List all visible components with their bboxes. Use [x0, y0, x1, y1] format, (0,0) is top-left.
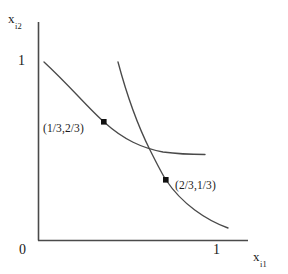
- plot-canvas: [0, 0, 288, 274]
- y-axis-title: xi2: [8, 12, 22, 28]
- x-axis-tick-label-1: 1: [213, 243, 220, 257]
- y-axis-tick-label-1: 1: [18, 54, 25, 68]
- x-axis-title-base: x: [253, 249, 260, 264]
- y-axis-title-subscript: i2: [15, 21, 22, 31]
- marker-point-a: [101, 119, 107, 125]
- curve-steep: [118, 62, 228, 228]
- x-axis-title: xi1: [253, 250, 267, 266]
- y-axis-title-base: x: [8, 11, 15, 26]
- marker-point-b: [163, 177, 169, 183]
- origin-tick-label: 0: [19, 243, 26, 257]
- x-axis-title-subscript: i1: [260, 259, 267, 269]
- point-a-label: (1/3,2/3): [43, 123, 84, 135]
- point-b-label: (2/3,1/3): [175, 180, 216, 192]
- indifference-curve-figure: xi2 xi1 1 0 1 (1/3,2/3) (2/3,1/3): [0, 0, 288, 274]
- curve-flat: [44, 62, 205, 155]
